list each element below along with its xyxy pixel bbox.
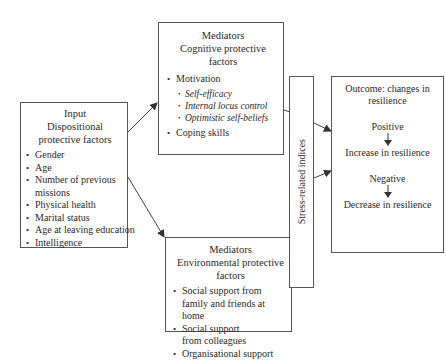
cognitive-mediators-box: Mediators Cognitive protective factors M…: [158, 22, 284, 155]
negative-label: Negative: [334, 173, 441, 185]
list-subitem: Internal locus control: [167, 100, 279, 112]
outcome-heading: Outcome: changes in resilience: [334, 83, 441, 107]
list-item: Motivation: [167, 73, 279, 86]
environmental-mediators-box: Mediators Environmental protective facto…: [165, 237, 292, 332]
arrow-down-icon: [384, 185, 392, 199]
arrow-down-icon: [384, 133, 392, 147]
list-item: Coping skills: [167, 127, 279, 140]
stress-indices-label: Stress-related indices: [296, 139, 307, 224]
list-item: Number of previous missions: [26, 174, 124, 199]
arrow-stress-to-outcome-bottom: [314, 171, 331, 178]
positive-label: Positive: [334, 121, 441, 133]
list-subitem: Optimistic self-beliefs: [167, 112, 279, 124]
cognitive-heading: Mediators: [167, 29, 279, 42]
list-item: Gender: [26, 149, 124, 162]
list-item: Physical health: [26, 199, 124, 212]
decrease-label: Decrease in resilience: [334, 199, 441, 211]
increase-label: Increase in resilience: [334, 147, 441, 159]
stress-indices-box: Stress-related indices: [289, 76, 314, 288]
list-subitem: Self-efficacy: [167, 88, 279, 100]
list-item: Social support from family and friends a…: [173, 285, 288, 323]
input-list: Gender Age Number of previous missions P…: [26, 149, 124, 249]
list-item: Social support from colleagues: [173, 323, 288, 348]
outcome-box: Outcome: changes in resilience Positive …: [331, 76, 444, 253]
environmental-heading: Mediators: [173, 243, 288, 256]
input-heading: Input: [26, 107, 124, 120]
arrow-input-to-cognitive: [128, 103, 157, 132]
environmental-subheading: Environmental protective factors: [173, 256, 288, 282]
list-item: Marital status: [26, 212, 124, 225]
input-subheading: Dispositional protective factors: [26, 120, 124, 146]
list-item: Organisational support: [173, 348, 288, 360]
cognitive-list: Motivation Self-efficacy Internal locus …: [167, 73, 279, 139]
environmental-list: Social support from family and friends a…: [173, 285, 288, 360]
list-item: Intelligence: [26, 237, 124, 250]
list-item: Age: [26, 162, 124, 175]
arrow-stress-to-outcome-top: [314, 123, 331, 131]
input-box: Input Dispositional protective factors G…: [20, 102, 128, 248]
cognitive-subheading: Cognitive protective factors: [167, 42, 279, 68]
list-item: Age at leaving education: [26, 224, 124, 237]
